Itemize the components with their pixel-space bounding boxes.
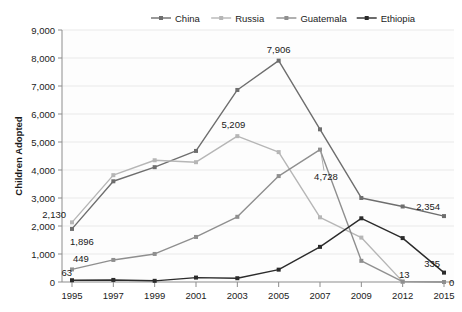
data-point-marker <box>235 88 239 92</box>
y-axis-title-text: Children Adopted <box>13 116 24 196</box>
data-point-marker <box>70 220 74 224</box>
x-tick-label: 2012 <box>392 290 413 301</box>
data-point-marker <box>153 165 157 169</box>
data-point-marker <box>277 59 281 63</box>
legend-marker-swatch <box>284 16 288 20</box>
data-point-marker <box>153 158 157 162</box>
y-tick-label: 7,000 <box>31 81 55 92</box>
data-point-marker <box>359 259 363 263</box>
legend-label: Ethiopia <box>381 13 416 24</box>
data-point-marker <box>235 134 239 138</box>
data-point-marker <box>442 271 446 275</box>
y-tick-label: 0 <box>50 277 55 288</box>
data-point-marker <box>111 278 115 282</box>
x-tick-label: 1999 <box>144 290 165 301</box>
x-tick-label: 1995 <box>61 290 82 301</box>
data-point-marker <box>111 179 115 183</box>
data-point-label: 335 <box>424 258 440 269</box>
data-point-marker <box>318 215 322 219</box>
x-tick-label: 2009 <box>351 290 372 301</box>
data-point-marker <box>359 236 363 240</box>
data-point-label: 2,130 <box>42 209 66 220</box>
legend-label: China <box>175 13 201 24</box>
data-point-marker <box>194 276 198 280</box>
plot-rect <box>62 30 454 282</box>
data-point-label: 2,354 <box>416 201 440 212</box>
x-tick-label: 2007 <box>309 290 330 301</box>
data-point-label: 1,896 <box>70 236 94 247</box>
data-point-marker <box>194 160 198 164</box>
data-point-marker <box>235 276 239 280</box>
legend-marker-swatch <box>219 16 223 20</box>
legend-label: Russia <box>235 13 265 24</box>
data-point-marker <box>318 245 322 249</box>
data-point-label: 5,209 <box>221 119 245 130</box>
y-tick-label: 5,000 <box>31 137 55 148</box>
legend-label: Guatemala <box>300 13 347 24</box>
y-tick-label: 1,000 <box>31 249 55 260</box>
plot-area-background <box>62 30 454 282</box>
data-point-label: 63 <box>61 267 72 278</box>
x-tick-label: 2015 <box>433 290 454 301</box>
adoption-line-chart: ChinaRussiaGuatemalaEthiopia 01,0002,000… <box>0 0 462 312</box>
data-point-marker <box>111 173 115 177</box>
data-point-marker <box>318 127 322 131</box>
x-tick-label: 1997 <box>103 290 124 301</box>
data-point-marker <box>442 214 446 218</box>
data-point-marker <box>401 204 405 208</box>
data-point-marker <box>194 235 198 239</box>
data-point-marker <box>318 148 322 152</box>
data-point-marker <box>359 196 363 200</box>
y-tick-label: 3,000 <box>31 193 55 204</box>
data-point-marker <box>153 252 157 256</box>
x-tick-label: 2003 <box>227 290 248 301</box>
data-point-label: 13 <box>399 269 410 280</box>
data-point-marker <box>277 174 281 178</box>
y-tick-label: 9,000 <box>31 25 55 36</box>
x-tick-label: 2005 <box>268 290 289 301</box>
data-point-marker <box>153 279 157 283</box>
y-tick-label: 8,000 <box>31 53 55 64</box>
data-point-marker <box>401 280 405 284</box>
data-point-marker <box>277 268 281 272</box>
y-tick-label: 6,000 <box>31 109 55 120</box>
data-point-marker <box>235 215 239 219</box>
y-tick-label: 4,000 <box>31 165 55 176</box>
data-point-label: 0 <box>449 277 454 288</box>
data-point-label: 449 <box>73 253 89 264</box>
x-tick-label: 2001 <box>185 290 206 301</box>
data-point-marker <box>111 258 115 262</box>
data-point-marker <box>277 150 281 154</box>
data-point-marker <box>70 227 74 231</box>
data-point-marker <box>194 149 198 153</box>
chart-canvas: ChinaRussiaGuatemalaEthiopia 01,0002,000… <box>0 0 462 312</box>
data-point-marker <box>359 216 363 220</box>
data-point-label: 7,906 <box>267 44 291 55</box>
data-point-marker <box>401 236 405 240</box>
y-axis-title: Children Adopted <box>13 116 24 196</box>
legend-marker-swatch <box>365 16 369 20</box>
data-point-marker <box>442 280 446 284</box>
y-tick-label: 2,000 <box>31 221 55 232</box>
data-point-label: 4,728 <box>314 171 338 182</box>
data-point-marker <box>70 278 74 282</box>
legend-marker-swatch <box>159 16 163 20</box>
